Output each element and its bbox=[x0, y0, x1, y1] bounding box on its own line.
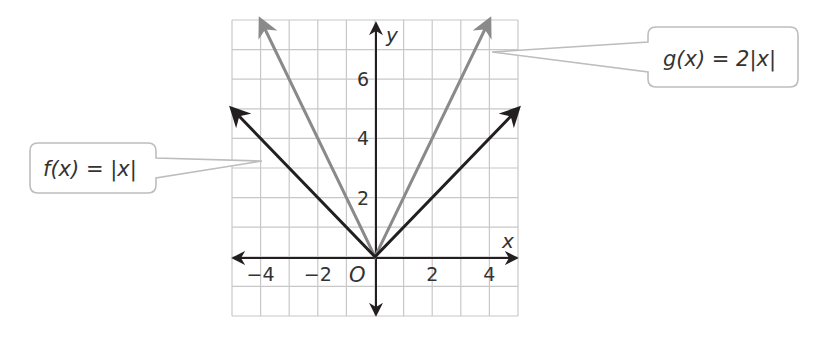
x-tick-label: −4 bbox=[247, 263, 275, 285]
x-tick-label: −2 bbox=[304, 263, 332, 285]
callout-g-text: g(x) = 2|x| bbox=[663, 47, 776, 72]
y-tick-label: 6 bbox=[357, 68, 369, 90]
x-tick-label: 4 bbox=[483, 263, 495, 285]
y-tick-label: 4 bbox=[357, 127, 369, 149]
axes bbox=[234, 24, 516, 314]
absolute-value-graph: −4−224246 x y O f(x) = |x| g(x) = 2|x| bbox=[0, 0, 828, 339]
y-tick-label: 2 bbox=[357, 187, 369, 209]
callout-g: g(x) = 2|x| bbox=[492, 27, 798, 87]
origin-label: O bbox=[349, 263, 366, 287]
x-tick-label: 2 bbox=[426, 263, 438, 285]
x-axis-label: x bbox=[501, 229, 514, 253]
callout-f: f(x) = |x| bbox=[30, 143, 262, 193]
callout-f-text: f(x) = |x| bbox=[43, 157, 137, 182]
y-axis-label: y bbox=[385, 23, 399, 47]
